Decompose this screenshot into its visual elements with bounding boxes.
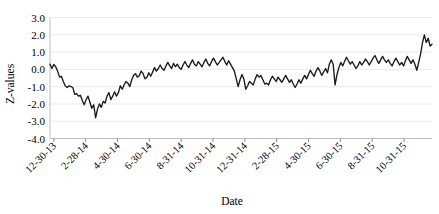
x-axis-tick-label: 10-31-15 xyxy=(373,140,408,175)
z-values-line-chart: 3.02.01.00.0-1.0-2.0-3.0-4.0 12-30-132-2… xyxy=(0,0,439,214)
y-axis-tick-label: 3.0 xyxy=(31,12,45,24)
x-axis-title: Date xyxy=(221,195,243,207)
y-axis-tick-label: -1.0 xyxy=(28,81,46,93)
y-axis-tick-label: -4.0 xyxy=(28,133,46,145)
x-axis-tick-label: 8-31-15 xyxy=(345,140,376,171)
x-axis-tick-label: 10-31-14 xyxy=(182,140,218,176)
x-axis-tick-label: 12-31-14 xyxy=(214,140,250,176)
x-axis-tick-label: 6-30-14 xyxy=(122,140,154,172)
y-axis-tick-label: 1.0 xyxy=(31,46,45,58)
y-axis-tick-label: 0.0 xyxy=(31,63,45,75)
x-axis-tick-label: 2-28-15 xyxy=(250,140,281,171)
y-axis-tick-labels: 3.02.01.00.0-1.0-2.0-3.0-4.0 xyxy=(28,12,46,145)
x-axis-tick-label: 12-30-13 xyxy=(23,140,58,175)
y-axis-tick-label: -2.0 xyxy=(28,98,46,110)
y-axis-tick-label: -3.0 xyxy=(28,115,46,127)
x-axis-tick-label: 2-28-14 xyxy=(59,140,91,172)
x-axis-tick-labels: 12-30-132-28-144-30-146-30-148-31-1410-3… xyxy=(23,139,408,176)
data-series-line xyxy=(50,35,432,118)
x-axis-tick-label: 8-31-14 xyxy=(154,140,186,172)
x-axis-tick-label: 4-30-15 xyxy=(282,140,313,171)
y-axis-tick-label: 2.0 xyxy=(31,29,45,41)
y-axis-title: Z-values xyxy=(4,63,16,104)
x-axis-tick-label: 4-30-14 xyxy=(91,140,123,172)
chart-container: 3.02.01.00.0-1.0-2.0-3.0-4.0 12-30-132-2… xyxy=(0,0,439,214)
x-axis-tick-label: 6-30-15 xyxy=(313,140,344,171)
